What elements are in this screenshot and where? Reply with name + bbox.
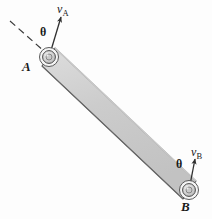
label-point-b: B — [181, 200, 190, 213]
pin-A — [40, 48, 59, 67]
velocity-b-subscript: B — [197, 151, 203, 161]
label-theta-b: θ — [176, 158, 182, 170]
velocity-a-symbol: v — [57, 2, 62, 16]
bar-body — [42, 48, 196, 199]
label-point-a: A — [22, 60, 31, 73]
bar-ab — [42, 48, 196, 199]
bar-lower-edge-shadow — [42, 66, 183, 199]
velocity-a-subscript: A — [63, 8, 69, 18]
diagram-canvas — [0, 0, 212, 219]
label-theta-a: θ — [40, 26, 46, 38]
label-velocity-a: vA — [57, 3, 68, 15]
label-velocity-b: vB — [191, 146, 202, 158]
velocity-b-symbol: v — [191, 145, 196, 159]
pin-B — [180, 181, 199, 200]
physics-diagram-bar-ab: A B vA vB θ θ — [0, 0, 212, 219]
bar-highlight-edge — [55, 48, 196, 181]
